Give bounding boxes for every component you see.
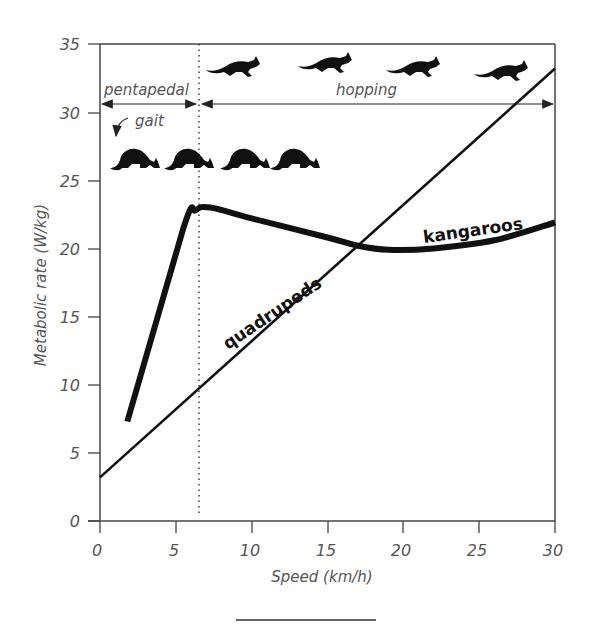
y-tick-label: 10 <box>60 376 80 395</box>
hopping-kangaroo-icons <box>206 52 528 81</box>
gait-arrow-icon <box>116 118 128 136</box>
y-tick-label: 30 <box>60 104 80 123</box>
kangaroo-crawl-icon <box>270 149 320 170</box>
y-axis-tick-labels: 0 5 10 15 20 25 30 35 <box>60 35 80 531</box>
y-axis-title: Metabolic rate (W/kg) <box>32 204 50 366</box>
x-tick-label: 15 <box>316 541 336 560</box>
kangaroo-hop-icon <box>386 56 440 77</box>
x-tick-label: 0 <box>92 541 102 560</box>
y-tick-label: 20 <box>60 240 80 259</box>
kangaroo-crawl-icon <box>110 149 160 170</box>
kangaroo-crawl-icon <box>164 149 214 170</box>
x-axis-ticks <box>100 521 555 533</box>
x-tick-label: 30 <box>543 541 563 560</box>
x-tick-label: 25 <box>467 541 487 560</box>
y-axis-ticks <box>88 44 100 521</box>
x-axis-title: Speed (km/h) <box>271 568 372 586</box>
y-tick-label: 15 <box>60 308 80 327</box>
pentapedal-label: pentapedal <box>103 81 190 99</box>
gait-label: gait <box>135 112 165 130</box>
y-tick-label: 35 <box>60 35 80 54</box>
hopping-label: hopping <box>336 81 397 99</box>
x-axis-tick-labels: 0 5 10 15 20 25 30 <box>92 541 563 560</box>
kangaroo-hop-icon <box>298 52 352 73</box>
y-tick-label: 5 <box>70 444 80 463</box>
kangaroo-hop-icon <box>474 60 528 81</box>
x-tick-label: 5 <box>169 541 179 560</box>
y-tick-label: 25 <box>60 172 80 191</box>
kangaroos-line <box>127 207 555 422</box>
quadrupeds-label: quadrupeds <box>219 273 325 354</box>
y-tick-label: 0 <box>70 512 80 531</box>
kangaroo-hop-icon <box>206 56 260 77</box>
x-tick-label: 10 <box>240 541 260 560</box>
chart: 0 5 10 15 20 25 30 35 0 5 10 15 20 25 30… <box>0 0 595 636</box>
kangaroo-crawl-icon <box>220 149 270 170</box>
x-tick-label: 20 <box>391 541 411 560</box>
crawling-kangaroo-icons <box>110 149 320 170</box>
